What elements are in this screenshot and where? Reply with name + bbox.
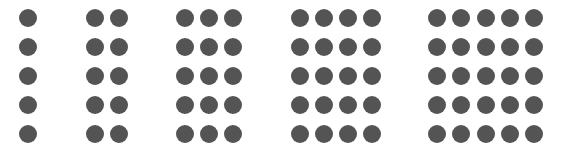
dot [19,9,37,27]
dot [19,125,37,143]
dot [525,38,543,56]
dot [224,96,242,114]
dot [200,67,218,85]
dot [291,67,309,85]
dot [363,96,381,114]
dot [86,67,104,85]
dot [86,96,104,114]
dot [110,9,128,27]
dot [363,67,381,85]
dot [315,96,333,114]
dot [501,67,519,85]
dot [501,125,519,143]
dot [224,67,242,85]
dot [176,96,194,114]
dot [339,96,357,114]
dot [525,67,543,85]
dot [315,38,333,56]
dot [477,38,495,56]
dot [176,38,194,56]
dot [501,96,519,114]
dot [339,125,357,143]
dot [200,125,218,143]
dot [291,125,309,143]
dot [477,96,495,114]
dot [525,96,543,114]
dot [224,38,242,56]
dot [477,67,495,85]
dot [19,96,37,114]
dot [477,125,495,143]
dot [176,67,194,85]
dot [176,125,194,143]
dot [363,125,381,143]
dot [176,9,194,27]
dot [452,125,470,143]
dot [86,38,104,56]
dot [315,9,333,27]
dot [428,9,446,27]
dot [428,96,446,114]
dot [224,9,242,27]
dot [200,96,218,114]
dot [291,9,309,27]
dot [200,38,218,56]
dot [452,38,470,56]
dot [110,38,128,56]
dot [291,38,309,56]
dot [224,125,242,143]
dot [428,125,446,143]
dot [525,9,543,27]
dot [315,125,333,143]
dot [200,9,218,27]
dot [428,67,446,85]
dot [110,67,128,85]
dot [291,96,309,114]
dot [363,9,381,27]
dot [452,96,470,114]
dot [86,9,104,27]
dot [428,38,446,56]
dot [452,9,470,27]
dot [501,38,519,56]
dot [339,9,357,27]
dot [363,38,381,56]
dot [339,38,357,56]
dot [110,96,128,114]
dot [339,67,357,85]
dot [315,67,333,85]
dot [501,9,519,27]
dot [525,125,543,143]
dot [110,125,128,143]
dot [452,67,470,85]
dot [477,9,495,27]
dot [86,125,104,143]
dot [19,67,37,85]
dot [19,38,37,56]
